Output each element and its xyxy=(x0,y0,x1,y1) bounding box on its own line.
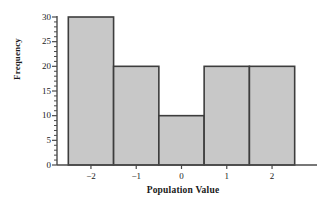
y-axis-tick-label: 5 xyxy=(27,136,51,145)
bars-group xyxy=(68,17,294,165)
y-axis-tick-label: 10 xyxy=(27,111,51,120)
histogram-bar xyxy=(68,17,113,165)
histogram-bar xyxy=(204,66,249,165)
y-axis-tick-label: 15 xyxy=(27,87,51,96)
y-axis-tick-label: 0 xyxy=(27,161,51,170)
y-axis-tick-label: 30 xyxy=(27,13,51,22)
x-axis-tick-label: −1 xyxy=(121,172,151,181)
histogram-bar xyxy=(249,66,294,165)
x-axis-tick-label: 2 xyxy=(257,172,287,181)
histogram-bar xyxy=(159,116,204,165)
x-axis-tick-label: 1 xyxy=(212,172,242,181)
y-axis-tick-label: 20 xyxy=(27,62,51,71)
histogram-bar xyxy=(114,66,159,165)
x-axis-tick-label: 0 xyxy=(167,172,197,181)
x-axis-tick-label: −2 xyxy=(76,172,106,181)
histogram-figure: Frequency Population Value 051015202530 … xyxy=(0,0,329,206)
y-axis-tick-label: 25 xyxy=(27,37,51,46)
